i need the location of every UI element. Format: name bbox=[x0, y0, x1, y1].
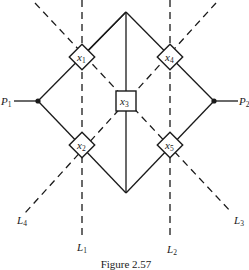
node-x3[interactable]: x3 bbox=[116, 91, 136, 111]
label-l3: L3 bbox=[233, 214, 244, 228]
node-x5[interactable]: x5 bbox=[157, 132, 182, 157]
label-l2: L2 bbox=[166, 243, 177, 257]
network-diagram: x1 x2 x3 x4 x5 P1 P2 L1 L2 L3 L4 Figure … bbox=[0, 0, 249, 270]
node-x2[interactable]: x2 bbox=[69, 132, 94, 157]
terminal-p1-dot bbox=[35, 98, 40, 103]
label-p1: P1 bbox=[0, 95, 12, 109]
label-l4: L4 bbox=[16, 214, 27, 228]
figure-caption: Figure 2.57 bbox=[101, 258, 152, 270]
terminal-p2-dot bbox=[211, 98, 216, 103]
label-p2: P2 bbox=[238, 95, 249, 109]
label-l1: L1 bbox=[76, 241, 87, 255]
